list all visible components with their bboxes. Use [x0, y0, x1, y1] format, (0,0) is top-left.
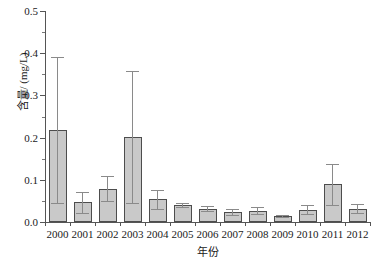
- bar-slot: [170, 11, 195, 222]
- x-tick-label-2001: 2001: [72, 226, 94, 242]
- bar-chart: 含量/ (mg/L) 0.00.10.20.30.40.5 2000200120…: [0, 0, 378, 265]
- y-tick-label: 0.2: [24, 132, 38, 143]
- bar-slot: [95, 11, 120, 222]
- bar-slot: [120, 11, 145, 222]
- bar-slot: [70, 11, 95, 222]
- x-tick-label-2008: 2008: [247, 226, 269, 242]
- error-bar-cap-lower-2004: [151, 209, 164, 210]
- x-tick-label-2000: 2000: [47, 226, 69, 242]
- bar-series: [45, 11, 370, 222]
- error-bar-cap-lower-2010: [301, 214, 314, 215]
- error-bar-cap-lower-2007: [226, 215, 239, 216]
- error-bar-cap-lower-2003: [126, 203, 139, 204]
- y-tick-minor: [42, 159, 45, 160]
- x-axis-title: 年份: [45, 243, 370, 259]
- bar-slot: [145, 11, 170, 222]
- error-bar-cap-upper-2004: [151, 190, 164, 191]
- x-axis-tick-labels: 2000200120022003200420052006200720082009…: [45, 226, 370, 242]
- x-axis-line: [45, 222, 370, 223]
- x-tick-label-2009: 2009: [272, 226, 294, 242]
- y-tick-minor: [42, 32, 45, 33]
- error-bar-line-2011: [332, 164, 333, 205]
- bar-slot: [220, 11, 245, 222]
- error-bar-line-2010: [307, 205, 308, 214]
- error-bar-line-2002: [107, 176, 108, 201]
- y-tick-label: 0.4: [24, 48, 38, 59]
- error-bar-cap-lower-2012: [351, 213, 364, 214]
- y-tick-major: [40, 11, 45, 12]
- bar-slot: [270, 11, 295, 222]
- error-bar-cap-lower-2001: [76, 213, 89, 214]
- y-tick-minor: [42, 201, 45, 202]
- error-bar-line-2004: [157, 190, 158, 209]
- error-bar-cap-upper-2003: [126, 71, 139, 72]
- x-tick-label-2002: 2002: [97, 226, 119, 242]
- x-tick-label-2004: 2004: [147, 226, 169, 242]
- y-tick-label: 0.0: [24, 217, 38, 228]
- bar-slot: [45, 11, 70, 222]
- plot-area: 0.00.10.20.30.40.5: [45, 11, 370, 222]
- x-tick-label-2006: 2006: [197, 226, 219, 242]
- x-tick-label-2005: 2005: [172, 226, 194, 242]
- error-bar-cap-upper-2011: [326, 164, 339, 165]
- bar-slot: [245, 11, 270, 222]
- error-bar-cap-upper-2010: [301, 205, 314, 206]
- x-tick-label-2003: 2003: [122, 226, 144, 242]
- error-bar-cap-upper-2012: [351, 204, 364, 205]
- y-tick-label: 0.3: [24, 90, 38, 101]
- error-bar-cap-lower-2006: [201, 211, 214, 212]
- error-bar-cap-lower-2011: [326, 205, 339, 206]
- error-bar-cap-upper-2008: [251, 207, 264, 208]
- x-tick-label-2010: 2010: [297, 226, 319, 242]
- y-tick-minor: [42, 74, 45, 75]
- error-bar-cap-lower-2005: [176, 207, 189, 208]
- error-bar-line-2000: [57, 57, 58, 203]
- x-tick-label-2011: 2011: [322, 226, 344, 242]
- y-tick-label: 0.5: [24, 6, 38, 17]
- error-bar-cap-upper-2005: [176, 203, 189, 204]
- error-bar-cap-lower-2008: [251, 214, 264, 215]
- error-bar-line-2001: [82, 192, 83, 213]
- error-bar-cap-lower-2002: [101, 201, 114, 202]
- y-tick-minor: [42, 117, 45, 118]
- error-bar-cap-upper-2000: [51, 57, 64, 58]
- y-tick-major: [40, 180, 45, 181]
- error-bar-line-2003: [132, 71, 133, 203]
- bar-slot: [320, 11, 345, 222]
- y-tick-label: 0.1: [24, 174, 38, 185]
- error-bar-line-2008: [257, 207, 258, 214]
- x-tick-mark: [370, 222, 371, 226]
- bar-slot: [345, 11, 370, 222]
- y-tick-major: [40, 138, 45, 139]
- error-bar-line-2012: [357, 204, 358, 213]
- error-bar-cap-upper-2007: [226, 209, 239, 210]
- error-bar-cap-upper-2002: [101, 176, 114, 177]
- error-bar-cap-lower-2000: [51, 203, 64, 204]
- error-bar-cap-upper-2001: [76, 192, 89, 193]
- y-tick-major: [40, 53, 45, 54]
- x-tick-label-2007: 2007: [222, 226, 244, 242]
- y-axis-title: 含量/ (mg/L): [14, 22, 30, 142]
- x-tick-label-2012: 2012: [347, 226, 369, 242]
- bar-slot: [195, 11, 220, 222]
- error-bar-cap-upper-2009: [276, 215, 289, 216]
- bar-slot: [295, 11, 320, 222]
- y-tick-major: [40, 95, 45, 96]
- error-bar-cap-upper-2006: [201, 206, 214, 207]
- error-bar-cap-lower-2009: [276, 217, 289, 218]
